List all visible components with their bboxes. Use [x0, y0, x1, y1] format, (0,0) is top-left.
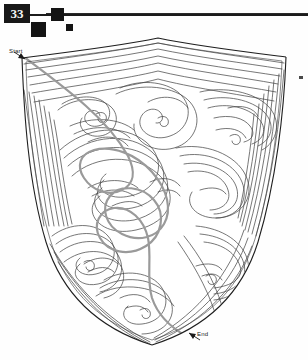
puzzle-page: 33 — [0, 0, 308, 360]
header-rule — [30, 14, 308, 16]
maze-svg — [0, 30, 308, 360]
start-label: Start — [9, 48, 23, 54]
maze-figure — [0, 30, 308, 360]
header-rule-thin — [46, 13, 308, 14]
puzzle-number-badge: 33 — [4, 4, 30, 23]
end-label: End — [197, 331, 208, 337]
header-square-medium-icon — [51, 8, 64, 21]
